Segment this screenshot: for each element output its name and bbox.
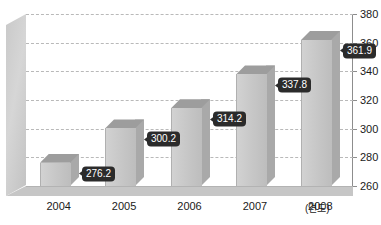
value-label-2008: 361.9: [343, 43, 376, 58]
chart-floor: [6, 186, 353, 196]
y-axis-tick: [353, 157, 357, 158]
y-axis-tick-label: 300: [360, 123, 378, 134]
value-label-2005: 300.2: [147, 132, 180, 147]
value-label-2007: 337.8: [278, 78, 311, 93]
x-axis-title: (연도): [305, 200, 330, 215]
y-axis-tick-label: 380: [360, 9, 378, 20]
bar-2008: [301, 31, 331, 186]
y-axis-tick: [353, 14, 357, 15]
bar-2004: [40, 154, 70, 186]
bar-side-face: [201, 99, 210, 186]
chart-left-wall: [6, 14, 26, 196]
bar-side-face: [135, 119, 144, 186]
chart-container: 260280300320340360380 276.2300.2314.2337…: [0, 0, 381, 225]
bar-front-face: [40, 163, 71, 186]
chart-floor-edge: [26, 186, 353, 187]
value-label-2004: 276.2: [82, 166, 115, 181]
y-axis-tick: [353, 129, 357, 130]
x-axis-label-2004: 2004: [46, 200, 70, 212]
y-axis-tick-label: 280: [360, 152, 378, 163]
y-axis-tick-label: 320: [360, 95, 378, 106]
value-label-2006: 314.2: [213, 112, 246, 127]
y-axis-tick: [353, 71, 357, 72]
y-axis-tick: [353, 100, 357, 101]
bar-front-face: [171, 108, 202, 186]
y-axis-tick-label: 340: [360, 66, 378, 77]
bar-side-face: [331, 31, 340, 186]
x-axis-label-2005: 2005: [112, 200, 136, 212]
gridline: [26, 14, 353, 15]
x-axis-label-2006: 2006: [177, 200, 201, 212]
bar-front-face: [236, 74, 267, 186]
y-axis-tick-label: 260: [360, 181, 378, 192]
bar-front-face: [301, 40, 332, 186]
y-axis-tick: [353, 186, 357, 187]
bar-side-face: [266, 65, 275, 186]
x-axis-label-2007: 2007: [243, 200, 267, 212]
